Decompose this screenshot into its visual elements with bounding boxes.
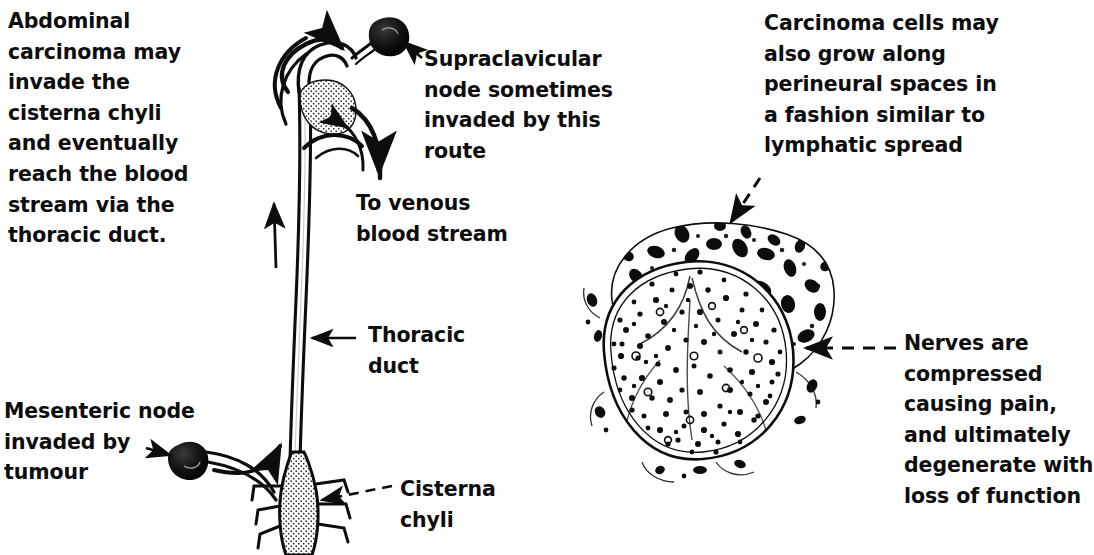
label-abdominal-carcinoma: Abdominal carcinoma may invade the ciste… [8, 6, 188, 251]
label-mesenteric-node: Mesenteric node invaded by tumour [4, 396, 195, 488]
label-cisterna-chyli: Cisterna chyli [400, 474, 496, 535]
label-nerves-compressed: Nerves are compressed causing pain, and … [904, 328, 1093, 512]
supraclavicular-lymph-node [352, 17, 409, 64]
arrow-flow-up-duct [274, 204, 276, 268]
arrow-cisterna-chyli-label [322, 486, 392, 500]
cisterna-chyli [252, 452, 350, 555]
label-carcinoma-perineural: Carcinoma cells may also grow along peri… [764, 8, 999, 161]
label-supraclavicular-node: Supraclavicular node sometimes invaded b… [424, 44, 613, 166]
thoracic-duct-arch [275, 38, 380, 178]
figure-canvas: Abdominal carcinoma may invade the ciste… [0, 0, 1094, 555]
nerve-cross-section [584, 178, 896, 482]
label-to-venous-blood-stream: To venous blood stream [356, 188, 508, 249]
mesenteric-lymphatic-vessels [206, 446, 280, 500]
arrow-to-tumour-mass [731, 178, 760, 222]
nerve-bundle [604, 261, 794, 459]
arrow-to-supraclavicular-node [404, 42, 422, 58]
label-thoracic-duct: Thoracic duct [368, 320, 465, 381]
